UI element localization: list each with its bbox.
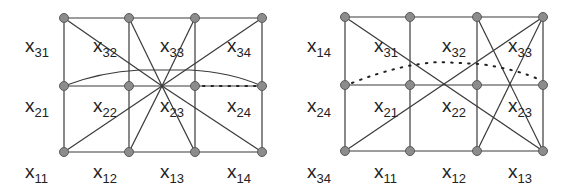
label-x14: x14 xyxy=(227,161,251,186)
label-x24: x24 xyxy=(227,95,251,120)
label-x33: x33 xyxy=(508,35,532,60)
label-x13: x13 xyxy=(508,161,532,186)
label-x22: x22 xyxy=(93,95,117,120)
label-x23: x23 xyxy=(508,95,532,120)
label-x24: x24 xyxy=(307,95,331,120)
label-x22: x22 xyxy=(442,95,466,120)
label-x34: x34 xyxy=(307,161,331,186)
label-x33: x33 xyxy=(160,35,184,60)
label-x11: x11 xyxy=(25,161,48,186)
label-x31: x31 xyxy=(25,35,49,60)
label-x21: x21 xyxy=(374,95,398,120)
label-x12: x12 xyxy=(442,161,466,186)
right-labels: x14 x31 x32 x33 x24 x21 x22 x23 x34 x11 … xyxy=(307,35,532,186)
label-x14: x14 xyxy=(307,35,331,60)
label-x21: x21 xyxy=(25,95,49,120)
right-diagram: x14 x31 x32 x33 x24 x21 x22 x23 x34 x11 … xyxy=(307,13,548,187)
label-x32: x32 xyxy=(93,35,117,60)
left-labels: x31 x32 x33 x34 x21 x22 x23 x24 x11 x12 … xyxy=(25,35,251,186)
label-x12: x12 xyxy=(93,161,117,186)
label-x34: x34 xyxy=(227,35,251,60)
label-x13: x13 xyxy=(160,161,184,186)
label-x32: x32 xyxy=(442,35,466,60)
label-x11: x11 xyxy=(374,161,397,186)
grid-graph-diagrams: x31 x32 x33 x34 x21 x22 x23 x24 x11 x12 … xyxy=(0,0,573,196)
left-diagram: x31 x32 x33 x34 x21 x22 x23 x24 x11 x12 … xyxy=(25,14,267,187)
label-x31: x31 xyxy=(374,35,398,60)
